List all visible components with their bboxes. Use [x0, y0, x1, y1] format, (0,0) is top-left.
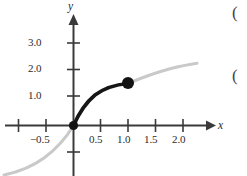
side-paren-second: ( [232, 66, 238, 86]
endpoint-dot [122, 77, 134, 89]
figure-root: 3.0 2.0 1.0 −0.5 0.5 1.0 1.5 2.0 x y ( ( [0, 0, 247, 176]
x-tick-label-1.5: 1.5 [144, 133, 157, 145]
y-axis-label: y [68, 0, 73, 12]
curve-continuation-right [128, 63, 197, 83]
x-tick-label-0.5: 0.5 [89, 133, 102, 145]
x-tick-label-1.0: 1.0 [117, 133, 130, 145]
y-tick-label-2.0: 2.0 [28, 62, 41, 74]
origin-dot [69, 121, 78, 130]
y-tick-label-1.0: 1.0 [28, 89, 41, 101]
x-tick-label--0.5: −0.5 [30, 133, 50, 145]
x-axis-arrowhead [206, 121, 216, 131]
y-tick-label-3.0: 3.0 [28, 36, 41, 48]
x-axis-label: x [218, 119, 223, 131]
x-tick-label-2.0: 2.0 [172, 133, 185, 145]
y-axis-arrowhead [69, 14, 79, 25]
graph-canvas [0, 0, 247, 176]
side-paren-first: ( [232, 3, 238, 23]
